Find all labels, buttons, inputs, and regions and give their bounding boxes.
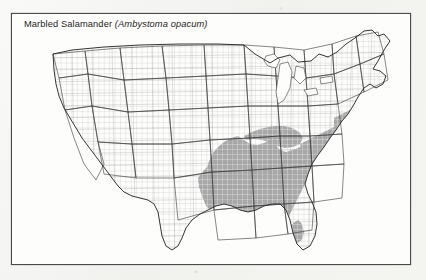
figure-frame: Marbled Salamander (Ambystoma opacum) [11, 13, 411, 265]
us-county-distribution-map [12, 14, 412, 266]
range-southern-new-england [360, 92, 387, 115]
map-svg [12, 14, 412, 266]
